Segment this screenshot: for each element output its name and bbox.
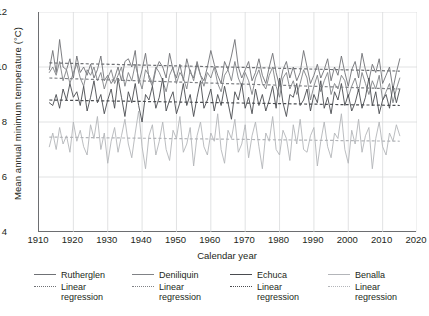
- legend-item-rutherglen-regression: Linearregression: [34, 282, 132, 303]
- x-tick-2020: 2020: [396, 235, 429, 245]
- y-tick-4: 4: [0, 227, 7, 237]
- legend-line-icon: [328, 270, 350, 279]
- legend-column-benalla: BenallaLinearregression: [328, 270, 426, 304]
- legend-dashed-line-icon: [328, 282, 350, 291]
- legend-label-regression: Linearregression: [355, 282, 397, 303]
- legend-item-deniliquin-regression: Linearregression: [132, 282, 230, 303]
- legend-label-regression: Linearregression: [61, 282, 103, 303]
- plot-area: [38, 12, 416, 232]
- legend-label: Deniliquin: [159, 270, 199, 281]
- legend-label: Echuca: [257, 270, 287, 281]
- legend-line-icon: [34, 270, 56, 279]
- legend-line-icon: [132, 270, 154, 279]
- series-canvas: [39, 12, 417, 232]
- legend-item-deniliquin: Deniliquin: [132, 270, 230, 281]
- chart-container: Mean annual minimum temperature (°C) 468…: [0, 0, 429, 316]
- legend-column-rutherglen: RutherglenLinearregression: [34, 270, 132, 304]
- y-tick-10: 10: [0, 62, 7, 72]
- legend-item-echuca: Echuca: [230, 270, 328, 281]
- legend-item-benalla-regression: Linearregression: [328, 282, 426, 303]
- y-tick-12: 12: [0, 7, 7, 17]
- legend-label-regression: Linearregression: [257, 282, 299, 303]
- legend-dashed-line-icon: [34, 282, 56, 291]
- y-tick-6: 6: [0, 172, 7, 182]
- legend-label: Rutherglen: [61, 270, 105, 281]
- y-axis-title: Mean annual minimum temperature (°C): [12, 9, 23, 219]
- legend-item-rutherglen: Rutherglen: [34, 270, 132, 281]
- legend-item-echuca-regression: Linearregression: [230, 282, 328, 303]
- legend-line-icon: [230, 270, 252, 279]
- x-axis-title: Calendar year: [38, 250, 416, 261]
- legend-dashed-line-icon: [230, 282, 252, 291]
- legend-dashed-line-icon: [132, 282, 154, 291]
- chart-legend: RutherglenLinearregressionDeniliquinLine…: [34, 270, 426, 304]
- legend-label: Benalla: [355, 270, 385, 281]
- legend-column-deniliquin: DeniliquinLinearregression: [132, 270, 230, 304]
- legend-item-benalla: Benalla: [328, 270, 426, 281]
- legend-column-echuca: EchucaLinearregression: [230, 270, 328, 304]
- y-tick-8: 8: [0, 117, 7, 127]
- legend-label-regression: Linearregression: [159, 282, 201, 303]
